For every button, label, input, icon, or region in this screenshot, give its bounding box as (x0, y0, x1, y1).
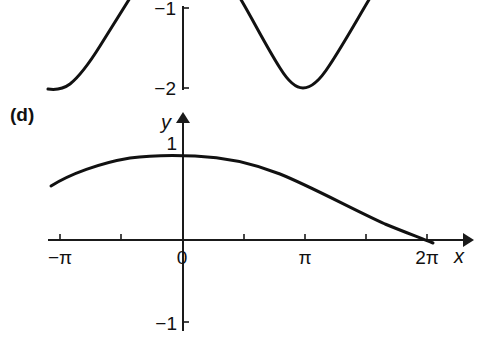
y-axis-label: y (159, 111, 172, 133)
x-ticklabel-minus-pi: −π (48, 247, 72, 268)
y-axis-arrow-icon (176, 112, 190, 123)
y-ticklabel-minus1: −1 (155, 313, 177, 334)
upper-left-curve (48, 0, 130, 89)
main-plot: y x 1 −1 −π 0 π 2π (48, 111, 474, 334)
upper-ylabel-minus2: −2 (154, 78, 176, 99)
x-axis-arrow-icon (463, 233, 474, 247)
upper-panel: −1 −2 (48, 0, 370, 99)
math-figure: −1 −2 (d) y x (0, 0, 478, 338)
upper-ylabel-minus1: −1 (154, 0, 176, 19)
figure-canvas: −1 −2 (d) y x (0, 0, 478, 338)
x-ticklabel-pi: π (298, 247, 311, 268)
x-ticklabel-two-pi: 2π (415, 247, 439, 268)
cosine-curve (51, 155, 433, 243)
y-ticklabel-1: 1 (166, 133, 177, 154)
x-axis-label: x (453, 245, 465, 267)
upper-right-curve (240, 0, 370, 88)
panel-label-d: (d) (10, 104, 34, 125)
x-ticklabel-zero: 0 (177, 247, 188, 268)
